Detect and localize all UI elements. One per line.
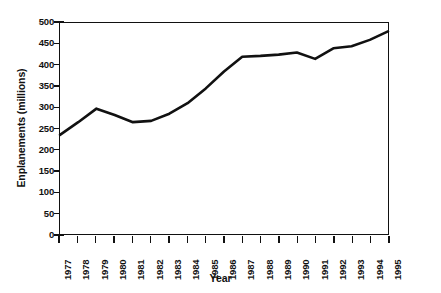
x-tick-mark [132,236,133,243]
x-tick-mark [223,236,224,243]
y-tick-label: 250 [26,124,54,134]
series-polyline [60,31,388,134]
x-tick-mark [370,236,371,243]
x-tick-mark [278,236,279,243]
x-tick-mark [77,236,78,243]
x-tick-mark [187,236,188,243]
enplanements-line-chart: Enplanements (millions) 0501001502002503… [0,0,441,293]
x-tick-mark [242,236,243,243]
x-tick-mark [205,236,206,243]
y-tick-label: 300 [26,102,54,112]
y-tick-label: 100 [26,187,54,197]
y-tick-label: 50 [26,209,54,219]
y-tick-label: 350 [26,81,54,91]
x-tick-mark [333,236,334,243]
y-tick-label: 450 [26,38,54,48]
plot-area [59,22,389,235]
x-tick-mark [297,236,298,243]
x-tick-mark [315,236,316,243]
y-axis-tick-labels: 050100150200250300350400450500 [26,14,54,244]
x-tick-mark [260,236,261,243]
x-tick-mark [150,236,151,243]
x-tick-mark [95,236,96,243]
x-tick-mark [168,236,169,243]
x-tick-mark [352,236,353,243]
x-axis-title: Year [0,272,441,284]
y-tick-label: 0 [26,230,54,240]
y-tick-label: 500 [26,17,54,27]
x-tick-mark [113,236,114,243]
x-tick-mark [58,236,59,243]
x-tick-mark [388,236,389,243]
y-tick-label: 200 [26,145,54,155]
y-tick-label: 400 [26,60,54,70]
y-tick-label: 150 [26,166,54,176]
enplanements-series-line [60,23,388,234]
